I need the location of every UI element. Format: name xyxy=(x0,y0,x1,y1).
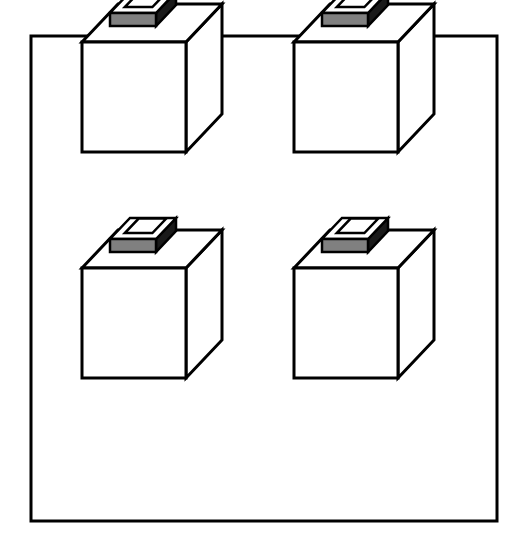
cube-front-face xyxy=(294,42,398,152)
handle-front-face xyxy=(110,13,156,26)
handle-front-face xyxy=(322,13,368,26)
cube-front-face xyxy=(82,268,186,378)
handle-front-face xyxy=(322,239,368,252)
cube-front-face xyxy=(82,42,186,152)
figure-canvas xyxy=(0,0,519,549)
figure-root: Four identical cube-shaped containers, e… xyxy=(0,0,519,549)
cube-front-face xyxy=(294,268,398,378)
cube-top-left xyxy=(82,0,222,152)
handle-front-face xyxy=(110,239,156,252)
cube-top-right xyxy=(294,0,434,152)
